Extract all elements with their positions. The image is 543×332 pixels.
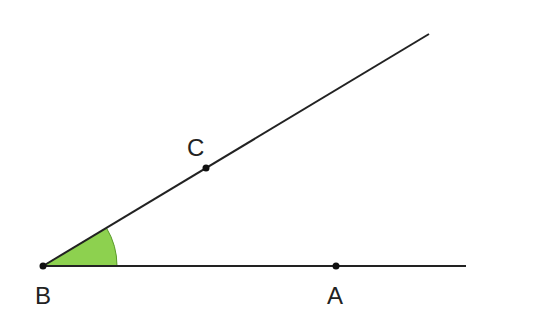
label-c: C [187,136,204,160]
point-c [203,165,210,172]
ray-bc [43,34,429,266]
point-a [333,263,340,270]
point-b [40,263,47,270]
label-a: A [327,284,343,308]
angle-diagram [0,0,543,332]
label-b: B [35,284,51,308]
